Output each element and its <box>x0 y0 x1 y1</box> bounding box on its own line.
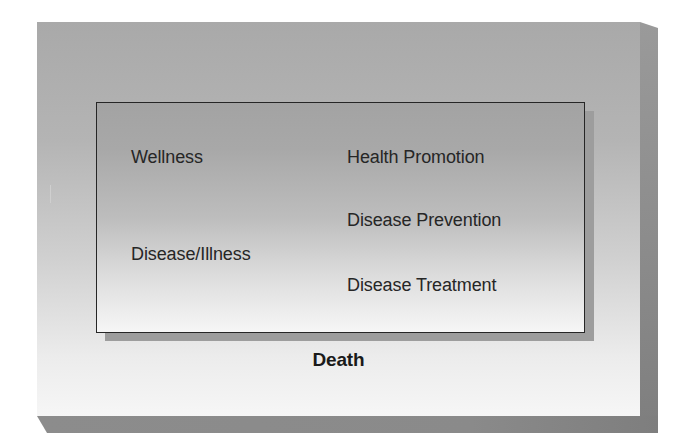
health-continuum-diagram: Optimal Health Death Wellness Disease/Il… <box>0 0 692 444</box>
disease-illness-label: Disease/Illness <box>131 244 251 265</box>
inner-box: Wellness Disease/Illness Health Promotio… <box>96 102 585 333</box>
panel-bevel-right <box>640 22 658 433</box>
wellness-label: Wellness <box>131 147 203 168</box>
health-promotion-label: Health Promotion <box>347 147 484 168</box>
scan-artifact <box>50 185 51 203</box>
disease-treatment-label: Disease Treatment <box>347 275 496 296</box>
disease-prevention-label: Disease Prevention <box>347 210 501 231</box>
death-label: Death <box>37 349 640 371</box>
panel-bevel-bottom <box>37 416 658 433</box>
